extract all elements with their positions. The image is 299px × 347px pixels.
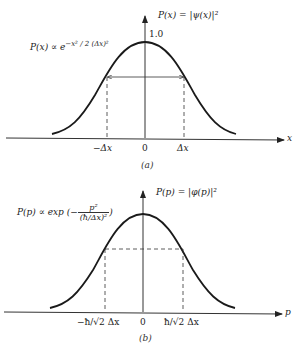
x-axis-label-b: p (285, 307, 291, 317)
formula-b-fraction: p²(ħ/Δx)² (78, 203, 110, 222)
gaussian-curve-a (52, 42, 236, 134)
y-axis-label-b: P(p) = |φ(p)|² (156, 187, 217, 197)
tick-label-zero-a: 0 (142, 143, 148, 153)
formula-b-numerator: p² (78, 203, 110, 213)
caption-b: (b) (139, 333, 152, 343)
tick-label-pos-a: Δx (177, 143, 189, 153)
formula-a-exponent: −x² / 2 (Δx)² (65, 40, 108, 48)
formula-b-suffix: ) (109, 207, 113, 217)
formula-a-base: P(x) ∝ e (30, 42, 65, 52)
formula-b-denominator: (ħ/Δx)² (78, 213, 110, 222)
caption-a: (a) (141, 160, 153, 170)
y-axis-label-a: P(x) = |ψ(x)|² (158, 10, 218, 20)
formula-b-prefix: P(p) ∝ exp (− (17, 207, 78, 217)
x-axis-a (6, 138, 284, 140)
figure-canvas (0, 0, 299, 347)
tick-label-neg-b: −ħ/√2 Δx (77, 317, 119, 327)
peak-label-a: 1.0 (149, 29, 163, 39)
formula-a: P(x) ∝ e−x² / 2 (Δx)² (30, 40, 109, 52)
tick-label-pos-b: ħ/√2 Δx (164, 317, 199, 327)
tick-label-neg-a: −Δx (93, 143, 112, 153)
x-axis-label-a: x (287, 133, 292, 143)
formula-b: P(p) ∝ exp (−p²(ħ/Δx)²) (17, 203, 113, 222)
tick-label-zero-b: 0 (140, 317, 146, 327)
panel-a (6, 16, 284, 140)
x-axis-b (4, 312, 282, 314)
